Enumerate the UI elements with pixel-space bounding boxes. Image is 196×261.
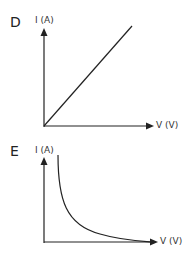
graph-d: D I (A) V (V) [0,0,196,130]
arrow-up-icon [41,28,48,36]
graph-e-x-axis [44,239,158,246]
arrow-right-icon [146,123,154,130]
graph-d-linear-line [44,26,132,126]
graph-e-plot [0,130,196,261]
arrow-up-icon [41,157,48,165]
graph-d-y-axis [41,28,48,127]
graph-d-x-axis [44,123,154,130]
graph-e-inverse-curve [58,155,152,242]
graph-d-plot [0,0,196,130]
graph-e-y-axis [41,157,48,243]
graph-e: E I (A) V (V) [0,130,196,261]
